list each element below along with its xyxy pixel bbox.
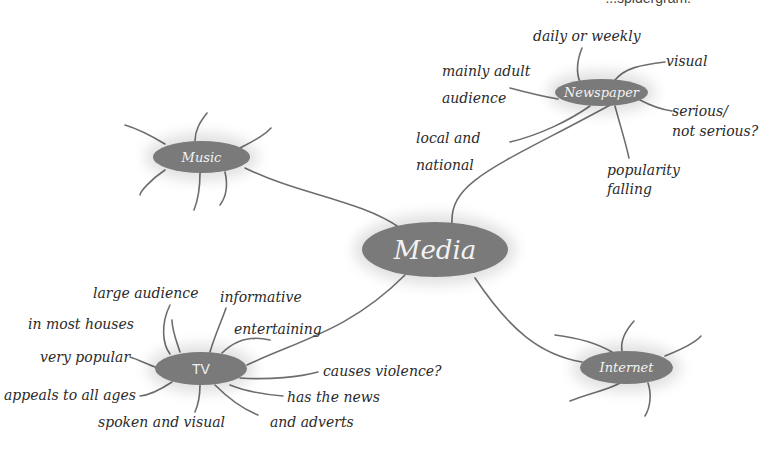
node-newspaper-label: Newspaper [564,85,639,100]
node-music: Music [153,141,250,173]
branch-label: visual [666,50,707,72]
branch-label: large audience [93,282,198,304]
branch-label: appeals to all ages [4,384,136,406]
center-node-media: Media [362,222,508,277]
branch-label: serious/ [672,100,728,122]
branch-label: daily or weekly [533,25,641,47]
node-internet-label: Internet [600,360,654,375]
node-newspaper: Newspaper [555,79,648,106]
branch-label: very popular [40,346,130,368]
branch-label: causes violence? [323,360,442,382]
center-node-label: Media [394,235,476,265]
branch-label: entertaining [234,318,322,340]
branch-label: and adverts [270,411,354,433]
branch-label: national [416,154,474,176]
branch-label: informative [220,286,302,308]
branch-label: falling [607,178,652,200]
node-tv-label: TV [192,361,210,377]
branch-label: has the news [287,386,380,408]
branch-label: in most houses [28,313,134,335]
spidergram: ...spidergram. [0,0,771,451]
node-music-label: Music [182,150,222,165]
branch-label: mainly adult [442,60,530,82]
node-tv: TV [155,352,247,385]
branch-label: audience [442,87,506,109]
branch-label: spoken and visual [98,411,225,433]
node-internet: Internet [580,351,673,384]
branch-label: not serious? [672,120,758,142]
branch-label: local and [416,127,480,149]
